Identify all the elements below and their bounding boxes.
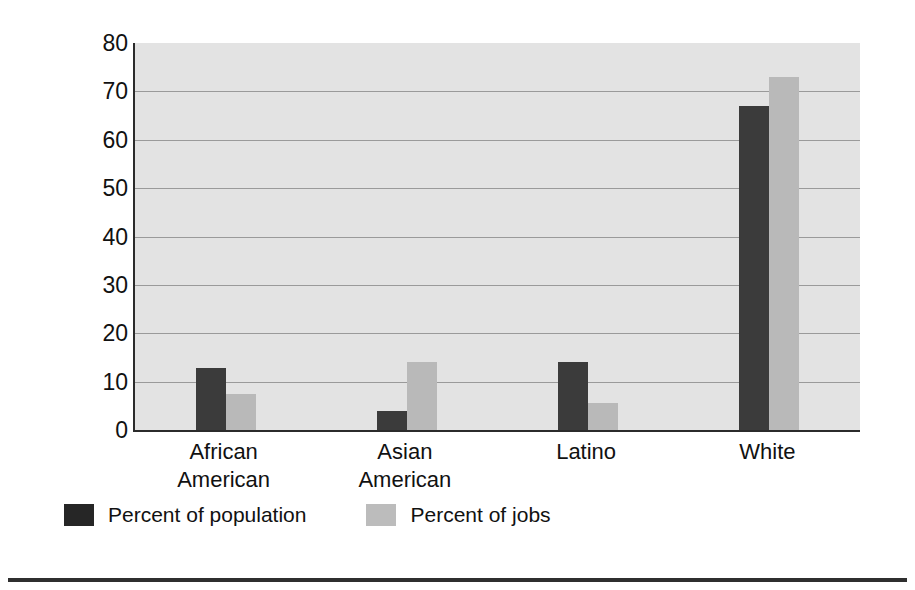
x-tick-label-line: Asian: [314, 438, 495, 466]
chart-legend: Percent of populationPercent of jobs: [64, 503, 551, 527]
y-tick-label-70: 70: [102, 80, 128, 103]
bar-chart-figure: Percentage 80706050403020100 AfricanAmer…: [0, 0, 915, 590]
bar-group-white: [679, 43, 860, 430]
x-tick-label-latino: Latino: [496, 438, 677, 494]
legend-label: Percent of jobs: [410, 503, 550, 527]
bars: [377, 362, 437, 430]
y-tick-label-10: 10: [102, 370, 128, 393]
bar-group-latino: [498, 43, 679, 430]
bar-african-american-percent-of-jobs: [226, 394, 256, 430]
y-tick-label-80: 80: [102, 32, 128, 55]
x-axis-tick-labels: AfricanAmericanAsianAmericanLatinoWhite: [133, 438, 858, 494]
x-tick-label-line: Latino: [496, 438, 677, 466]
legend-item-population[interactable]: Percent of population: [64, 503, 306, 527]
bars: [196, 368, 256, 430]
bar-asian-american-percent-of-jobs: [407, 362, 437, 430]
legend-label: Percent of population: [108, 503, 306, 527]
x-tick-label-line: American: [133, 466, 314, 494]
bar-latino-percent-of-jobs: [588, 403, 618, 430]
bars: [558, 362, 618, 430]
plot-area: [133, 43, 860, 432]
bar-african-american-percent-of-population: [196, 368, 226, 430]
legend-item-jobs[interactable]: Percent of jobs: [366, 503, 550, 527]
bar-white-percent-of-jobs: [769, 77, 799, 430]
legend-swatch-population: [64, 504, 94, 526]
bars: [739, 77, 799, 430]
bar-group-african-american: [135, 43, 316, 430]
y-tick-label-60: 60: [102, 128, 128, 151]
bar-group-asian-american: [316, 43, 497, 430]
y-tick-label-30: 30: [102, 273, 128, 296]
x-tick-label-line: American: [314, 466, 495, 494]
bar-asian-american-percent-of-population: [377, 411, 407, 430]
y-axis-tick-labels: 80706050403020100: [82, 43, 128, 430]
x-tick-label-african-american: AfricanAmerican: [133, 438, 314, 494]
y-tick-label-50: 50: [102, 177, 128, 200]
bar-groups: [135, 43, 860, 430]
y-tick-label-40: 40: [102, 225, 128, 248]
bar-latino-percent-of-population: [558, 362, 588, 430]
bar-white-percent-of-population: [739, 106, 769, 430]
y-tick-label-20: 20: [102, 322, 128, 345]
legend-swatch-jobs: [366, 504, 396, 526]
bottom-rule-divider: [8, 578, 907, 582]
x-tick-label-line: African: [133, 438, 314, 466]
x-tick-label-asian-american: AsianAmerican: [314, 438, 495, 494]
x-tick-label-line: White: [677, 438, 858, 466]
y-tick-label-0: 0: [115, 419, 128, 442]
x-tick-label-white: White: [677, 438, 858, 494]
